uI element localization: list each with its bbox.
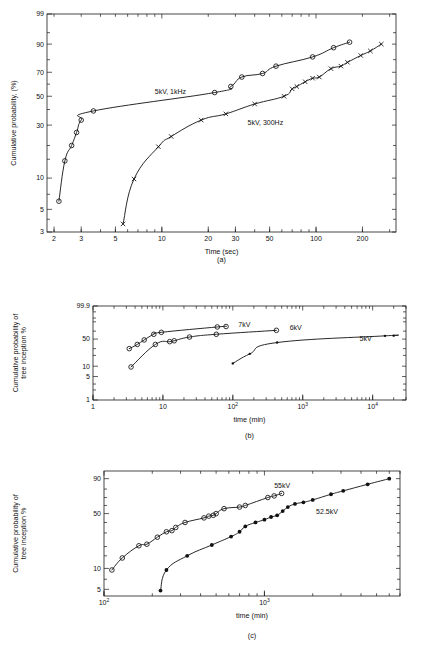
series-curve-1	[131, 330, 276, 367]
data-point	[229, 535, 233, 539]
data-point	[341, 489, 345, 493]
x-tick-label: 30	[232, 235, 240, 242]
series-label: 55kV	[274, 482, 290, 489]
data-point	[366, 482, 370, 486]
y-tick-label: 90	[93, 475, 101, 482]
y-tick-label: 99.9	[76, 302, 90, 309]
y-tick-label: 70	[36, 69, 44, 76]
x-tick-label: 50	[266, 235, 274, 242]
x-tick-label: 10	[159, 403, 167, 410]
x-tick-label: 1	[91, 403, 95, 410]
data-point	[275, 513, 279, 517]
series-label: 52.5kV	[316, 508, 338, 515]
y-tick-label: 50	[36, 93, 44, 100]
x-tick-label: 2	[52, 235, 56, 242]
panel-caption: (c)	[248, 631, 256, 640]
data-point	[276, 341, 278, 343]
series-label: 6kV	[290, 324, 302, 331]
data-point	[293, 502, 297, 506]
chart-panel-b: 11010210310499.95010517kV6kV5kVtime (min…	[0, 290, 436, 442]
data-point	[302, 500, 306, 504]
y-tick-label: 5	[40, 206, 44, 213]
data-point	[243, 525, 247, 529]
series-label: 5kV	[360, 335, 372, 342]
chart-c-svg: 102103905010555kV52.5kVtime (min)Cumulat…	[0, 455, 436, 645]
data-point	[185, 554, 189, 558]
x-tick-label: 103	[297, 401, 308, 410]
data-point	[286, 505, 290, 509]
y-tick-label: 99	[36, 10, 44, 17]
data-point	[159, 589, 163, 593]
chart-panel-a: 23510203050100200999070503010535kV, 1kHz…	[0, 0, 436, 268]
y-tick-label: 10	[93, 565, 101, 572]
y-tick-label: 5	[86, 373, 90, 380]
data-point	[238, 530, 242, 534]
x-tick-label: 10	[158, 235, 166, 242]
y-tick-label: 5	[97, 586, 101, 593]
y-tick-label: 50	[93, 510, 101, 517]
data-point	[281, 509, 285, 513]
series-curve-2	[233, 335, 399, 363]
x-tick-label: 100	[310, 235, 322, 242]
x-tick-label: 5	[113, 235, 117, 242]
series-curve-0	[112, 493, 282, 570]
x-axis-label: time (min)	[236, 611, 268, 620]
chart-b-svg: 11010210310499.95010517kV6kV5kVtime (min…	[0, 290, 436, 442]
data-point	[384, 335, 386, 337]
y-tick-label: 50	[82, 335, 90, 342]
y-tick-label: 10	[82, 363, 90, 370]
x-tick-label: 104	[367, 401, 378, 410]
data-point	[269, 515, 273, 519]
series-curve-0	[59, 42, 350, 201]
chart-a-svg: 23510203050100200999070503010535kV, 1kHz…	[0, 0, 436, 268]
y-axis-label: Cumulative probability, (%)	[9, 80, 18, 165]
series-label: 7kV	[238, 321, 250, 328]
data-point	[249, 353, 251, 355]
y-tick-label: 3	[40, 228, 44, 235]
panel-caption: (a)	[217, 255, 226, 264]
y-tick-label: 90	[36, 41, 44, 48]
data-point	[387, 477, 391, 481]
data-point	[232, 362, 234, 364]
x-tick-label: 200	[357, 235, 369, 242]
svg-text:Cumulative probability, (%): Cumulative probability, (%)	[9, 80, 18, 165]
chart-panel-c: 102103905010555kV52.5kVtime (min)Cumulat…	[0, 455, 436, 645]
y-tick-label: 30	[36, 122, 44, 129]
data-point	[392, 334, 394, 336]
data-point	[165, 568, 169, 572]
data-point	[311, 498, 315, 502]
x-tick-label: 103	[259, 597, 270, 606]
data-point	[210, 543, 214, 547]
data-point	[329, 492, 333, 496]
y-axis-label: Cumulative probability oftree inception …	[11, 494, 28, 573]
y-tick-label: 1	[86, 396, 90, 403]
x-tick-label: 102	[228, 401, 239, 410]
y-axis-label: Cumulative probability oftree inception …	[11, 314, 28, 393]
x-tick-label: 3	[79, 235, 83, 242]
panel-caption: (b)	[245, 431, 254, 440]
svg-text:tree inception %: tree inception %	[19, 327, 28, 379]
data-point	[254, 521, 258, 525]
series-curve-1	[123, 44, 381, 224]
series-label: 5kV, 1kHz	[155, 88, 187, 95]
svg-text:tree inception %: tree inception %	[19, 507, 28, 559]
data-point	[263, 518, 267, 522]
series-label: 5kV, 300Hz	[248, 119, 284, 126]
x-axis-label: time (min)	[234, 415, 266, 424]
x-tick-label: 102	[99, 597, 110, 606]
x-tick-label: 20	[204, 235, 212, 242]
y-tick-label: 10	[36, 174, 44, 181]
